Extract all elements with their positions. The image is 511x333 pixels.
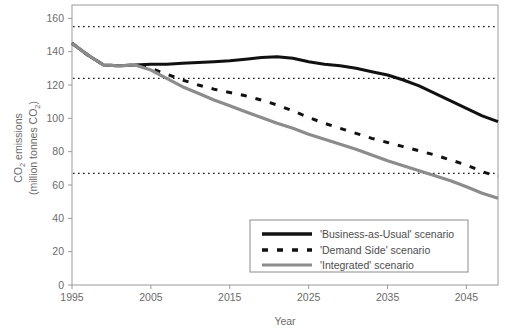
x-tick-label: 1995 bbox=[60, 291, 84, 303]
x-tick-label: 2035 bbox=[376, 291, 400, 303]
chart-legend: 'Business-as-Usual' scenario 'Demand Sid… bbox=[250, 220, 468, 272]
y-tick-label: 0 bbox=[58, 279, 64, 291]
y-tick-label: 100 bbox=[46, 112, 64, 124]
y-axis-title-line1-rest: emissions bbox=[12, 113, 24, 163]
y-tick-label: 60 bbox=[52, 179, 64, 191]
x-tick-label: 2005 bbox=[139, 291, 163, 303]
legend-label-demand-side: 'Demand Side' scenario bbox=[320, 244, 430, 256]
legend-label-integrated: 'Integrated' scenario bbox=[320, 259, 414, 271]
y-tick-label: 40 bbox=[52, 212, 64, 224]
x-tick-label: 2045 bbox=[455, 291, 479, 303]
y-tick-label: 160 bbox=[46, 12, 64, 24]
x-tick-label: 2015 bbox=[218, 291, 242, 303]
chart-background bbox=[0, 0, 511, 333]
y-axis-title-line2-main: (million tonnes CO bbox=[27, 109, 39, 195]
x-axis-title: Year bbox=[274, 315, 296, 327]
x-tick-label: 2025 bbox=[297, 291, 321, 303]
chart-figure: 020406080100120140160 199520052015202520… bbox=[0, 0, 511, 333]
co2-emissions-line-chart: 020406080100120140160 199520052015202520… bbox=[0, 0, 511, 333]
legend-label-business-as-usual: 'Business-as-Usual' scenario bbox=[320, 228, 454, 240]
y-axis-title: CO2 emissions (million tonnes CO2) bbox=[12, 101, 42, 195]
y-tick-label: 20 bbox=[52, 245, 64, 257]
y-tick-label: 80 bbox=[52, 145, 64, 157]
y-tick-label: 140 bbox=[46, 45, 64, 57]
y-axis-title-line1-co: CO bbox=[12, 167, 24, 183]
y-tick-label: 120 bbox=[46, 79, 64, 91]
y-axis-title-line2-rest: ) bbox=[27, 101, 39, 105]
